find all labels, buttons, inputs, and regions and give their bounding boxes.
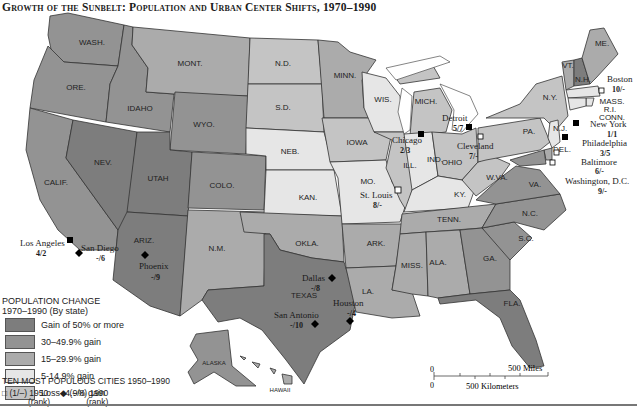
map-label: IOWA — [346, 138, 368, 147]
map-label: S.C. — [518, 234, 534, 243]
map-label: PA. — [523, 127, 535, 136]
city-marker-baltimore — [554, 150, 559, 155]
map-label: NEB. — [281, 147, 300, 156]
city-marker-los-angeles — [67, 237, 73, 243]
diamond-icon: ◆ — [60, 388, 67, 398]
map-label: OKLA. — [295, 239, 319, 248]
map-label: VA. — [529, 180, 541, 189]
map-label: FLA. — [504, 299, 521, 308]
map-label: ILL. — [403, 161, 416, 170]
map-label: N.M. — [209, 244, 226, 253]
map-label: N.C. — [522, 209, 538, 218]
map-label: KY. — [454, 190, 466, 199]
city-name-label: Chicago — [392, 135, 422, 145]
map-label: WYO. — [193, 120, 214, 129]
bottom-rule — [0, 404, 637, 406]
map-label: ARIZ. — [134, 236, 154, 245]
map-label: NEV. — [94, 158, 112, 167]
legend-item: 30–49.9% gain — [5, 333, 192, 350]
city-rank-label: -/10 — [290, 321, 303, 330]
map-label: N.H. — [575, 75, 591, 84]
legend-heading: POPULATION CHANGE — [2, 296, 192, 306]
map-label: KAN. — [299, 193, 318, 202]
map-label: IND. — [427, 155, 443, 164]
city-rank-label: 9/- — [598, 187, 607, 196]
city-marker-new-york — [573, 120, 579, 126]
city-rank-label: 7/- — [469, 152, 478, 161]
legend-item: Gain of 50% or more — [5, 316, 192, 333]
city-rank-label: 2/3 — [400, 146, 410, 155]
city-marker-st-louis — [395, 187, 401, 193]
map-label: VT. — [562, 61, 574, 70]
map-label: 0 — [430, 381, 434, 390]
city-rank-label: -/8 — [311, 284, 320, 293]
city-name-label: Phoenix — [139, 261, 169, 271]
cities-legend-heading: TEN MOST POPULOUS CITIES 1950–1990 — [2, 376, 170, 386]
city-rank-label: -/9 — [151, 273, 160, 282]
map-label: MONT. — [178, 59, 203, 68]
legend-swatch — [5, 318, 35, 332]
map-label: IDAHO — [127, 104, 152, 113]
legend-swatch — [5, 335, 35, 349]
city-rank-label: 4/2 — [36, 249, 46, 258]
city-rank-label: 6/- — [595, 167, 604, 176]
map-label: MISS. — [401, 261, 423, 270]
legend-subheading: 1970–1990 (By state) — [2, 306, 192, 316]
map-label: ALA. — [429, 258, 446, 267]
city-name-label: Los Angeles — [20, 238, 65, 248]
city-name-label: San Diego — [81, 243, 119, 253]
map-label: ME. — [595, 39, 609, 48]
cities-legend: TEN MOST POPULOUS CITIES 1950–1990 □ (1/… — [2, 376, 170, 407]
map-label: TENN. — [437, 215, 461, 224]
city-name-label: Houston — [333, 298, 364, 308]
map-label: HAWAII — [270, 387, 291, 393]
city-name-label: Washington, D.C. — [565, 176, 629, 186]
map-label: N.J. — [553, 124, 567, 133]
city-marker-detroit — [466, 124, 472, 130]
city-name-label: New York — [590, 119, 627, 129]
city-marker-washington-dc — [550, 160, 555, 165]
map-label: 500 Miles — [508, 363, 542, 373]
scale-bar-graphic: 0 0 500 Miles 500 Kilometers — [430, 362, 620, 394]
city-rank-label: 8/- — [373, 201, 382, 210]
city-marker-boston — [599, 88, 604, 93]
city-rank-label: 10/- — [612, 85, 625, 94]
city-name-label: St. Louis — [360, 190, 393, 200]
map-label: ALASKA — [202, 360, 225, 366]
state-ri — [586, 98, 594, 106]
city-rank-label: -/6 — [96, 254, 105, 263]
map-label: 500 Kilometers — [466, 381, 519, 391]
city-marker-philadelphia — [562, 134, 568, 140]
open-square-icon: □ — [2, 388, 7, 398]
map-label: W.VA. — [486, 173, 508, 182]
map-label: MINN. — [334, 71, 357, 80]
state-conn — [568, 98, 586, 110]
city-name-label: Detroit — [442, 113, 468, 123]
map-label: COLO. — [210, 181, 235, 190]
city-name-label: Philadelphia — [582, 138, 627, 148]
city-name-label: Boston — [607, 74, 633, 84]
map-label: WIS. — [374, 95, 391, 104]
map-label: ARK. — [367, 239, 386, 248]
map-label: UTAH — [147, 174, 168, 183]
city-name-label: Dallas — [302, 273, 325, 283]
map-label: S.D. — [275, 103, 291, 112]
map-label: LA. — [362, 287, 374, 296]
map-label: 0 — [430, 365, 434, 374]
map-label: N.Y. — [543, 93, 558, 102]
city-name-label: Baltimore — [581, 157, 617, 167]
state-fla — [438, 290, 544, 368]
legend-swatch — [5, 352, 35, 366]
map-label: MO. — [360, 177, 375, 186]
map-label: N.D. — [275, 59, 291, 68]
scale-bar: 0 0 500 Miles 500 Kilometers — [430, 362, 620, 394]
city-rank-label: -/4 — [347, 309, 356, 318]
city-marker-cleveland — [478, 134, 483, 139]
city-name-label: Cleveland — [457, 141, 494, 151]
map-label: CALIF. — [44, 178, 68, 187]
map-label: OHIO — [442, 158, 462, 167]
city-rank-label: 5/7 — [453, 124, 463, 133]
city-name-label: San Antonio — [274, 310, 319, 320]
map-label: WASH. — [79, 38, 105, 47]
map-label: ORE. — [66, 83, 86, 92]
